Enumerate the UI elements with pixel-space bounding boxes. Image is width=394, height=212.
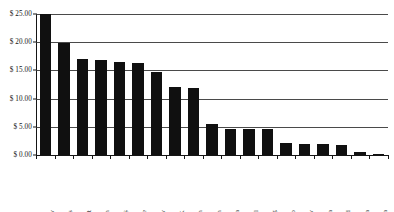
x-axis-tick (92, 155, 93, 159)
y-axis-tick-label: $ 25.00 (10, 10, 32, 18)
y-axis-tick-label: $ 20.00 (10, 38, 32, 46)
x-axis-tick (110, 155, 111, 159)
y-axis-tick-label: $ 15.00 (10, 66, 32, 74)
bar (132, 63, 143, 155)
x-axis-tick-label: UK (178, 210, 185, 212)
x-axis-tick (73, 155, 74, 159)
bar (40, 14, 51, 155)
x-axis-tick (203, 155, 204, 159)
x-axis-tick-label: Former DDR (85, 210, 92, 212)
x-axis-tick-label: West Germany (48, 210, 55, 212)
x-axis-tick (388, 155, 389, 159)
bar (262, 129, 273, 156)
bar (114, 62, 125, 155)
x-axis-tick (351, 155, 352, 159)
bar (299, 144, 310, 155)
bar-series (36, 14, 388, 155)
bar (151, 72, 162, 155)
x-axis-ticks (36, 155, 388, 159)
x-axis-tick (240, 155, 241, 159)
x-axis-tick-label: France (140, 210, 147, 212)
x-axis-tick-label: Italy (159, 210, 166, 212)
x-axis-tick (221, 155, 222, 159)
x-axis-labels: West GermanyNetherlandsFormer DDRJapanUS… (36, 160, 388, 212)
x-axis-tick-label: US (122, 210, 129, 212)
bar (336, 145, 347, 155)
x-axis-tick (147, 155, 148, 159)
bar (188, 88, 199, 155)
x-axis-tick (184, 155, 185, 159)
x-axis-tick (166, 155, 167, 159)
bar (95, 60, 106, 155)
x-axis-tick (369, 155, 370, 159)
x-axis-tick (332, 155, 333, 159)
x-axis-tick (314, 155, 315, 159)
x-axis-tick-label: Poland (344, 210, 351, 212)
x-axis-tick (258, 155, 259, 159)
y-axis-labels: $ 25.00$ 20.00$ 15.00$ 10.00$ 5.00$ 0.00 (0, 0, 35, 212)
x-axis-tick (277, 155, 278, 159)
bar (225, 129, 236, 155)
x-axis-tick-label: Spain (196, 210, 203, 212)
plot-area (36, 14, 388, 155)
bar (206, 124, 217, 155)
x-axis-tick-label: Mexico (289, 210, 296, 212)
y-axis-tick-label: $ 10.00 (10, 95, 32, 103)
x-axis-tick-label: Malaysia (326, 210, 333, 212)
x-axis-tick-label: South Korea (233, 210, 240, 212)
bar (243, 129, 254, 155)
x-axis-tick (295, 155, 296, 159)
x-axis-tick-label: Hong Kong (270, 210, 277, 212)
bar (77, 59, 88, 155)
bar (280, 143, 291, 155)
x-axis-tick-label: Taiwan (215, 210, 222, 212)
x-axis-tick (129, 155, 130, 159)
x-axis-tick-label: Hungary (307, 210, 314, 212)
x-axis-tick-label: Japan (103, 210, 110, 212)
bar-chart: $ 25.00$ 20.00$ 15.00$ 10.00$ 5.00$ 0.00… (0, 0, 394, 212)
y-axis-tick-label: $ 0.00 (13, 151, 32, 159)
x-axis-tick-label: Indonesia (381, 210, 388, 212)
y-axis-tick-label: $ 5.00 (13, 123, 32, 131)
x-axis-tick-label: Netherlands (66, 210, 73, 212)
x-axis-tick-label: Portugal (252, 210, 259, 212)
bar (58, 43, 69, 155)
x-axis-tick-label: China (363, 210, 370, 212)
bar (169, 87, 180, 155)
x-axis-tick (55, 155, 56, 159)
x-axis-tick (36, 155, 37, 159)
bar (317, 144, 328, 155)
